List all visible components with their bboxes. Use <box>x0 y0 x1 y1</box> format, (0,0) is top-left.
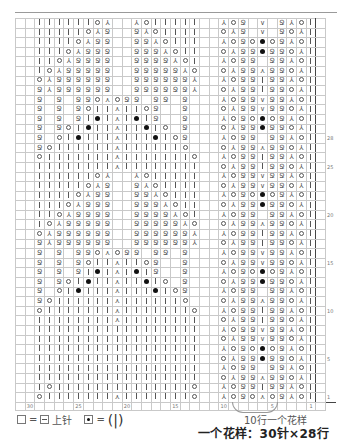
stitch-cell-purl-blank <box>316 354 326 364</box>
blank-cell-icon <box>17 415 26 424</box>
stitch-cell-twisted-knit: Ջ <box>238 95 248 105</box>
stitch-cell-knit <box>103 335 113 345</box>
stitch-cell-twisted-knit: Ջ <box>54 95 64 105</box>
stitch-cell-purl-blank <box>25 220 35 230</box>
stitch-cell-yarn-over <box>287 162 297 172</box>
stitch-cell-knit <box>112 326 122 336</box>
stitch-cell-purl-blank <box>122 28 132 38</box>
stitch-cell-knit <box>141 316 151 326</box>
stitch-cell-twisted-knit: Ջ <box>180 124 190 134</box>
stitch-cell-knit <box>306 239 316 249</box>
stitch-cell-twisted-knit: Ջ <box>238 345 248 355</box>
stitch-cell-purl-blank <box>25 86 35 96</box>
column-number <box>209 402 219 410</box>
stitch-cell-twisted-knit: Ջ <box>267 172 277 182</box>
stitch-cell-twisted-knit: Ջ <box>248 297 258 307</box>
stitch-cell-knit <box>122 306 132 316</box>
stitch-cell-twisted-knit: Ջ <box>267 287 277 297</box>
stitch-cell-twisted-knit: Ջ <box>248 249 258 259</box>
stitch-cell-knit <box>161 393 171 403</box>
stitch-cell-purl-blank <box>122 210 132 220</box>
stitch-cell-knit <box>122 143 132 153</box>
stitch-cell-knit <box>122 134 132 144</box>
stitch-cell-purl-blank <box>209 354 219 364</box>
stitch-cell-purl-blank <box>16 258 26 268</box>
stitch-cell-twisted-knit: Ջ <box>171 230 181 240</box>
stitch-cell-purl-blank <box>200 364 210 374</box>
row-number <box>326 364 336 374</box>
stitch-cell-twisted-knit: Ջ <box>238 153 248 163</box>
stitch-cell-knit <box>180 153 190 163</box>
stitch-cell-purl-blank <box>112 191 122 201</box>
stitch-cell-knit <box>258 239 268 249</box>
stitch-cell-knit <box>35 345 45 355</box>
stitch-cell-yarn-over <box>287 47 297 57</box>
stitch-cell-twisted-knit: Ջ <box>180 95 190 105</box>
chart-row: ⋏⅄Ջ⋏Ջ⅄1 <box>16 393 336 403</box>
stitch-cell-knit <box>306 249 316 259</box>
stitch-cell-purl-blank <box>209 28 219 38</box>
stitch-cell-bobble <box>132 114 142 124</box>
stitch-cell-twisted-knit: Ջ <box>238 393 248 403</box>
stitch-cell-twisted-knit: Ջ <box>248 201 258 211</box>
stitch-cell-purl-blank <box>45 134 55 144</box>
stitch-cell-knit <box>161 172 171 182</box>
stitch-cell-knit <box>151 162 161 172</box>
stitch-cell-yarn-over <box>229 326 239 336</box>
stitch-cell-twisted-knit: Ջ <box>103 38 113 48</box>
stitch-cell-yarn-over <box>296 191 306 201</box>
chart-row: ⅄ՋՋՋՋՋՋՋՋՋՋ⅄⅄ՋՋ⋏ՋՋ⅄ <box>16 66 336 76</box>
stitch-cell-purl-blank <box>209 220 219 230</box>
stitch-cell-purl-blank <box>200 249 210 259</box>
stitch-cell-twisted-knit: Ջ <box>122 95 132 105</box>
stitch-cell-yarn-over <box>287 124 297 134</box>
stitch-cell-twisted-knit: Ջ <box>238 383 248 393</box>
stitch-cell-k2tog: ⅄ <box>103 172 113 182</box>
stitch-cell-purl-blank <box>258 57 268 67</box>
stitch-cell-twisted-knit: Ջ <box>277 335 287 345</box>
chart-row: ՋՋՋ⋏ՋՋ⅄ՋՋ⅄ <box>16 114 336 124</box>
stitch-cell-twisted-knit: Ջ <box>180 258 190 268</box>
stitch-cell-knit <box>83 326 93 336</box>
stitch-cell-knit <box>54 306 64 316</box>
stitch-cell-purl-blank <box>16 172 26 182</box>
stitch-cell-knit <box>74 162 84 172</box>
stitch-cell-purl-blank <box>190 134 200 144</box>
stitch-cell-yarn-over <box>296 95 306 105</box>
stitch-cell-knit <box>35 191 45 201</box>
stitch-cell-knit <box>122 345 132 355</box>
stitch-cell-purl-blank <box>248 19 258 29</box>
stitch-cell-knit <box>258 316 268 326</box>
stitch-cell-purl-blank <box>25 201 35 211</box>
stitch-cell-purl-blank <box>16 306 26 316</box>
stitch-cell-knit <box>103 326 113 336</box>
chart-row: ⋏⅄ՋՋՋՋ⅄ <box>16 153 336 163</box>
stitch-cell-purl-blank <box>316 306 326 316</box>
stitch-cell-twisted-knit: Ջ <box>171 220 181 230</box>
stitch-cell-knit <box>180 47 190 57</box>
stitch-cell-twisted-knit: Ջ <box>267 220 277 230</box>
stitch-cell-yarn-over <box>161 191 171 201</box>
stitch-cell-purl-blank <box>122 201 132 211</box>
stitch-cell-yarn-over <box>229 383 239 393</box>
stitch-cell-double-decrease: ⋏ <box>112 153 122 163</box>
column-number <box>190 402 200 410</box>
stitch-cell-purl-blank <box>200 86 210 96</box>
stitch-cell-k2tog: ⅄ <box>296 335 306 345</box>
stitch-cell-k2tog: ⅄ <box>296 162 306 172</box>
stitch-cell-knit <box>64 153 74 163</box>
stitch-cell-twisted-knit: Ջ <box>267 258 277 268</box>
stitch-cell-twisted-knit: Ջ <box>238 210 248 220</box>
stitch-cell-yarn-over <box>287 105 297 115</box>
stitch-cell-yarn-over <box>229 268 239 278</box>
stitch-cell-ssk: ⅄ <box>287 268 297 278</box>
stitch-cell-twisted-knit: Ջ <box>141 38 151 48</box>
stitch-cell-purl-blank <box>190 143 200 153</box>
chart-row: ⅄ՋՋՋՋՋՋ⅄⅄ՋՋՋՋ⅄ <box>16 201 336 211</box>
stitch-cell-purl-blank <box>25 66 35 76</box>
stitch-cell-yarn-over <box>35 76 45 86</box>
stitch-cell-twisted-knit: Ջ <box>180 76 190 86</box>
stitch-cell-purl-blank <box>25 19 35 29</box>
stitch-cell-knit <box>54 191 64 201</box>
stitch-cell-twisted-knit: Ջ <box>103 201 113 211</box>
